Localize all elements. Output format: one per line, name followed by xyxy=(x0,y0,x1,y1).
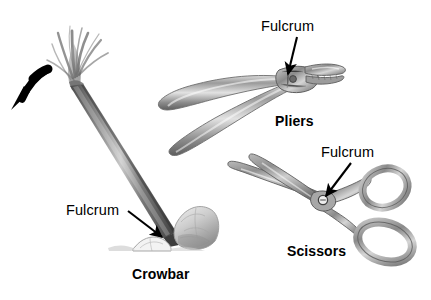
pliers-upper-jaw xyxy=(305,64,345,75)
tool-label-crowbar: Crowbar xyxy=(132,267,190,281)
scissors-lower-loop xyxy=(352,215,417,268)
crowbar-motion-arrow-tail xyxy=(33,69,48,79)
crowbar-ground-scuff-left xyxy=(108,245,135,251)
tool-label-scissors: Scissors xyxy=(287,244,346,258)
tool-label-pliers: Pliers xyxy=(275,114,314,128)
fulcrum-label-pliers: Fulcrum xyxy=(261,19,314,34)
crowbar-motion-arrow-head xyxy=(11,86,30,110)
lever-tools-diagram: Fulcrum Fulcrum Fulcrum Pliers Scissors … xyxy=(0,0,431,300)
fulcrum-label-crowbar: Fulcrum xyxy=(66,203,119,218)
pliers-pivot-pin xyxy=(290,76,297,83)
scissors-upper-loop xyxy=(357,162,414,214)
pliers-illustration xyxy=(158,37,345,156)
fulcrum-label-scissors: Fulcrum xyxy=(321,145,374,160)
